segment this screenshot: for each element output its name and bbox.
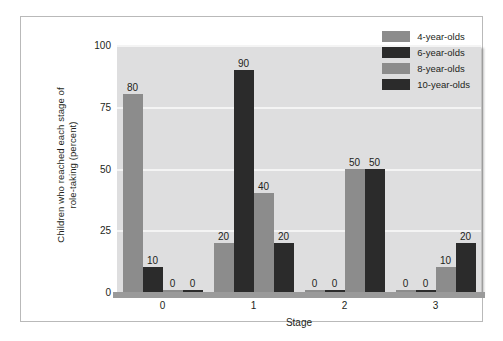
bar-group-stage-2: 005050 (299, 45, 390, 292)
bar-slot-8-year-olds-stage-0: 0 (163, 45, 183, 292)
bar-value-label: 40 (258, 181, 269, 192)
bar-slot-4-year-olds-stage-0: 80 (123, 45, 143, 292)
y-tick-label-75: 75 (77, 101, 111, 112)
bar-value-label: 20 (218, 231, 229, 242)
bar[interactable]: 20 (214, 243, 234, 292)
legend-item-10-year-olds[interactable]: 10-year-olds (382, 79, 470, 90)
bar[interactable]: 20 (274, 243, 294, 292)
bar-slot-6-year-olds-stage-0: 10 (143, 45, 163, 292)
bar-slot-4-year-olds-stage-1: 20 (214, 45, 234, 292)
x-tick-label-0: 0 (117, 300, 208, 311)
x-axis-title: Stage (117, 317, 481, 328)
y-tick-label-25: 25 (77, 225, 111, 236)
legend-swatch-icon (382, 63, 410, 74)
legend-label: 10-year-olds (417, 79, 470, 90)
bar-value-label: 80 (127, 82, 138, 93)
legend-label: 6-year-olds (417, 47, 465, 58)
bar-slot-6-year-olds-stage-2: 0 (325, 45, 345, 292)
bar-slot-4-year-olds-stage-2: 0 (305, 45, 325, 292)
bar[interactable]: 10 (143, 267, 163, 292)
bar[interactable]: 50 (365, 169, 385, 293)
bar-value-label: 0 (423, 278, 429, 289)
bar-value-label: 20 (460, 231, 471, 242)
legend-swatch-icon (382, 79, 410, 90)
bar-slot-10-year-olds-stage-0: 0 (183, 45, 203, 292)
x-tick-label-3: 3 (390, 300, 481, 311)
legend-item-8-year-olds[interactable]: 8-year-olds (382, 63, 470, 74)
bar-value-label: 0 (403, 278, 409, 289)
x-tick-label-2: 2 (299, 300, 390, 311)
y-axis-title-line-1: Children who reached each stage of (55, 87, 66, 243)
legend-swatch-icon (382, 31, 410, 42)
bar-value-label: 50 (369, 157, 380, 168)
bar-value-label: 50 (349, 157, 360, 168)
legend-item-4-year-olds[interactable]: 4-year-olds (382, 31, 470, 42)
x-axis-baseline (113, 292, 485, 298)
bar-slot-6-year-olds-stage-1: 90 (234, 45, 254, 292)
bar-value-label: 0 (332, 278, 338, 289)
legend-label: 4-year-olds (417, 31, 465, 42)
bar-slot-8-year-olds-stage-1: 40 (254, 45, 274, 292)
bar-slot-8-year-olds-stage-2: 50 (345, 45, 365, 292)
chart-legend: 4-year-olds6-year-olds8-year-olds10-year… (382, 31, 470, 90)
x-tick-label-1: 1 (208, 300, 299, 311)
bar-value-label: 10 (440, 255, 451, 266)
bar-group-stage-1: 20904020 (208, 45, 299, 292)
bar[interactable]: 90 (234, 70, 254, 292)
bar-slot-10-year-olds-stage-1: 20 (274, 45, 294, 292)
bar[interactable]: 50 (345, 169, 365, 293)
legend-label: 8-year-olds (417, 63, 465, 74)
bar[interactable]: 20 (456, 243, 476, 292)
bar[interactable]: 80 (123, 94, 143, 292)
bar-value-label: 20 (278, 231, 289, 242)
bar[interactable]: 10 (436, 267, 456, 292)
x-axis-tick-labels: 0123 (117, 300, 481, 311)
bar-value-label: 0 (170, 278, 176, 289)
y-tick-label-100: 100 (77, 40, 111, 51)
bar-value-label: 10 (147, 255, 158, 266)
bar-value-label: 90 (238, 58, 249, 69)
y-tick-label-50: 50 (77, 163, 111, 174)
y-axis-tick-labels: 1007550250 (77, 45, 111, 292)
legend-item-6-year-olds[interactable]: 6-year-olds (382, 47, 470, 58)
legend-swatch-icon (382, 47, 410, 58)
bar-group-stage-0: 801000 (117, 45, 208, 292)
y-tick-label-0: 0 (77, 287, 111, 298)
bar-value-label: 0 (190, 278, 196, 289)
bar[interactable]: 40 (254, 193, 274, 292)
figure-frame: Children who reached each stage of role-… (20, 16, 483, 322)
bar-value-label: 0 (312, 278, 318, 289)
